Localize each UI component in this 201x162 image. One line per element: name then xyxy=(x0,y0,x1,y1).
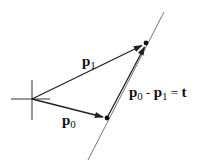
origin-cross xyxy=(11,80,50,120)
label-p0: p0 xyxy=(62,112,76,130)
vector-diagram: p1 p0 p0 - p1 = t xyxy=(0,0,201,162)
label-p1: p1 xyxy=(82,53,96,71)
point-p1-dot xyxy=(144,41,149,46)
vector-t-arrow xyxy=(107,47,145,118)
point-p0-dot xyxy=(105,116,110,121)
label-t-equation: p0 - p1 = t xyxy=(129,84,186,102)
